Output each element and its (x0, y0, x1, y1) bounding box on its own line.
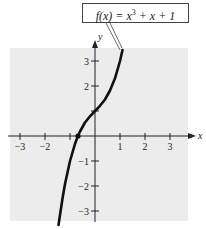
callout-pointer-edge (110, 23, 122, 48)
y-tick-label: −1 (78, 156, 89, 167)
x-axis-label: x (197, 130, 203, 141)
y-tick-label: 2 (84, 81, 89, 92)
plot-background (10, 48, 188, 221)
function-label-rhs: + x + 1 (136, 9, 176, 23)
y-tick-label: −3 (78, 206, 89, 217)
y-tick-label: 3 (84, 56, 89, 67)
x-tick-label: 2 (143, 141, 148, 152)
y-axis-label: y (97, 31, 103, 42)
x-axis-arrow-icon (188, 133, 196, 139)
y-tick-label: −2 (78, 181, 89, 192)
callout-pointer (106, 23, 120, 50)
chart-canvas: −3 −2 1 2 3 3 2 −1 −2 −3 x y (0, 0, 206, 229)
x-tick-label: 3 (168, 141, 173, 152)
x-tick-label: 1 (118, 141, 123, 152)
function-label-box: f(x) = x3 + x + 1 (82, 3, 189, 23)
x-tick-label: −2 (40, 141, 51, 152)
root-point (75, 133, 80, 138)
function-label-lhs: f(x) = x (96, 9, 132, 23)
x-tick-label: −3 (15, 141, 26, 152)
